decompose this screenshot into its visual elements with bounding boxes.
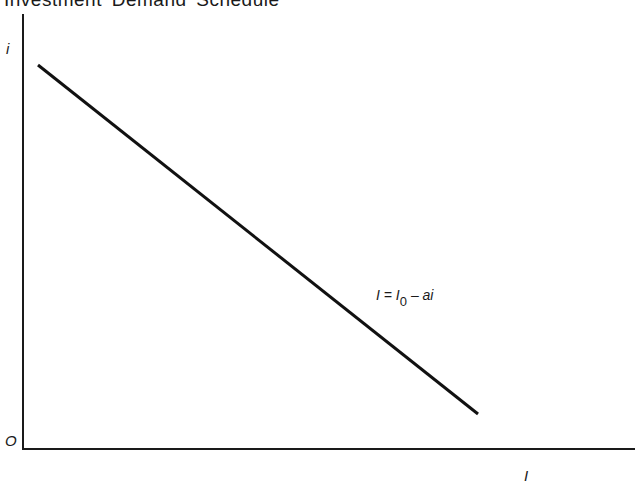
y-axis-label: i	[6, 40, 9, 57]
plot-area	[0, 0, 637, 487]
x-axis-label: I	[524, 467, 528, 484]
origin-label: O	[5, 432, 17, 449]
equation-lhs: I	[376, 287, 380, 303]
investment-demand-line	[38, 65, 478, 414]
equation-subscript: 0	[400, 294, 407, 309]
equation-equals: =	[384, 287, 392, 303]
equation-annotation: I = I0 – ai	[376, 287, 433, 309]
equation-rest: – ai	[411, 287, 434, 303]
